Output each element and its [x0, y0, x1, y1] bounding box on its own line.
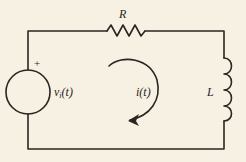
resistor-label: R [119, 8, 126, 20]
circuit-drawing [0, 0, 246, 162]
rl-circuit-diagram: R L + vi(t) i(t) [0, 0, 246, 162]
wire-top-right [145, 31, 224, 58]
polarity-plus: + [34, 58, 40, 69]
current-arrowhead [128, 114, 139, 126]
wire-bottom [28, 114, 224, 149]
source-label-arg: (t) [62, 85, 73, 99]
current-arrow-arc [109, 59, 158, 120]
inductor-symbol [224, 58, 232, 121]
inductor-label: L [207, 86, 214, 98]
current-label: i(t) [136, 86, 151, 98]
resistor-symbol [107, 25, 145, 36]
source-label: vi(t) [54, 86, 73, 100]
voltage-source-symbol [6, 70, 50, 114]
